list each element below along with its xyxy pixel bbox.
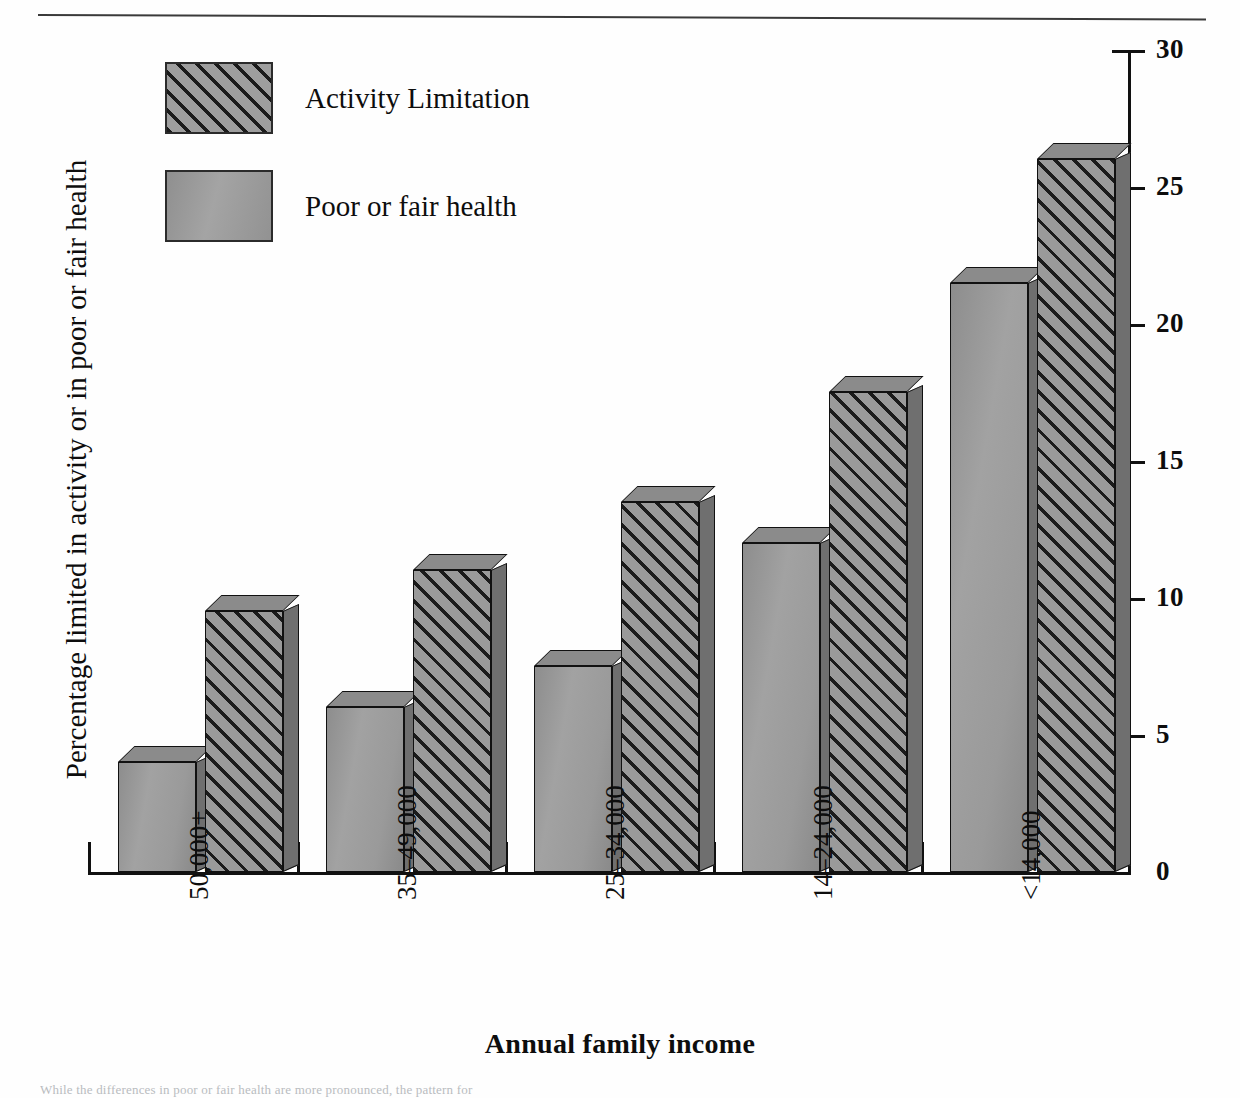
x-category-label-2: 25–34,000 <box>602 785 629 900</box>
bar-poor-or-fair-health-under-14000 <box>950 283 1028 872</box>
y-tick-label-20: 20 <box>1156 310 1184 337</box>
legend-label-activity-limitation: Activity Limitation <box>305 84 530 113</box>
x-category-label-1: 35–49,000 <box>394 785 421 900</box>
bar-chart: Activity Limitation Poor or fair health … <box>0 0 1240 1098</box>
x-category-label-0: 50,000+ <box>186 811 213 900</box>
bar-activity-limitation-under-14000 <box>1037 159 1115 872</box>
legend-label-poor-or-fair-health: Poor or fair health <box>305 192 517 221</box>
y-tick-label-10: 10 <box>1156 584 1184 611</box>
x-category-label-4: <14,000 <box>1018 811 1045 900</box>
y-tick-label-25: 25 <box>1156 173 1184 200</box>
x-axis-title: Annual family income <box>0 1030 1240 1058</box>
figure-page: Activity Limitation Poor or fair health … <box>0 0 1240 1098</box>
y-tick-30 <box>1112 50 1145 53</box>
y-tick-label-5: 5 <box>1156 721 1170 748</box>
bar-activity-limitation-50000plus <box>205 611 283 872</box>
y-axis-title: Percentage limited in activity or in poo… <box>62 150 91 790</box>
legend-swatch-poor-or-fair-health <box>165 170 273 242</box>
y-tick-label-0: 0 <box>1156 858 1170 885</box>
legend-swatch-activity-limitation <box>165 62 273 134</box>
bar-activity-limitation-14-24000 <box>829 392 907 872</box>
x-tick-start <box>88 842 91 872</box>
x-category-label-3: 14–24,000 <box>810 785 837 900</box>
y-tick-label-15: 15 <box>1156 447 1184 474</box>
bar-activity-limitation-25-34000 <box>621 502 699 872</box>
y-tick-label-30: 30 <box>1156 36 1184 63</box>
page-body-text: While the differences in poor or fair he… <box>40 1082 1200 1098</box>
bar-activity-limitation-35-49000 <box>413 570 491 872</box>
